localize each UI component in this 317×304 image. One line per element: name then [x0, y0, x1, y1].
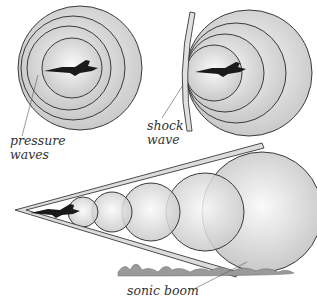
- shock-wave-label: shock wave: [147, 119, 184, 147]
- subsonic-waves: [18, 6, 142, 130]
- label-line: waves: [10, 148, 66, 162]
- label-line: wave: [147, 133, 184, 147]
- sonic-waves: [182, 10, 312, 136]
- supersonic-waves: [15, 143, 317, 277]
- sonic-boom-label: sonic boom: [127, 284, 199, 298]
- label-line: shock: [147, 119, 184, 133]
- pressure-waves-label: pressure waves: [10, 134, 66, 162]
- shock-leader-line: [162, 85, 183, 118]
- label-line: pressure: [10, 134, 66, 148]
